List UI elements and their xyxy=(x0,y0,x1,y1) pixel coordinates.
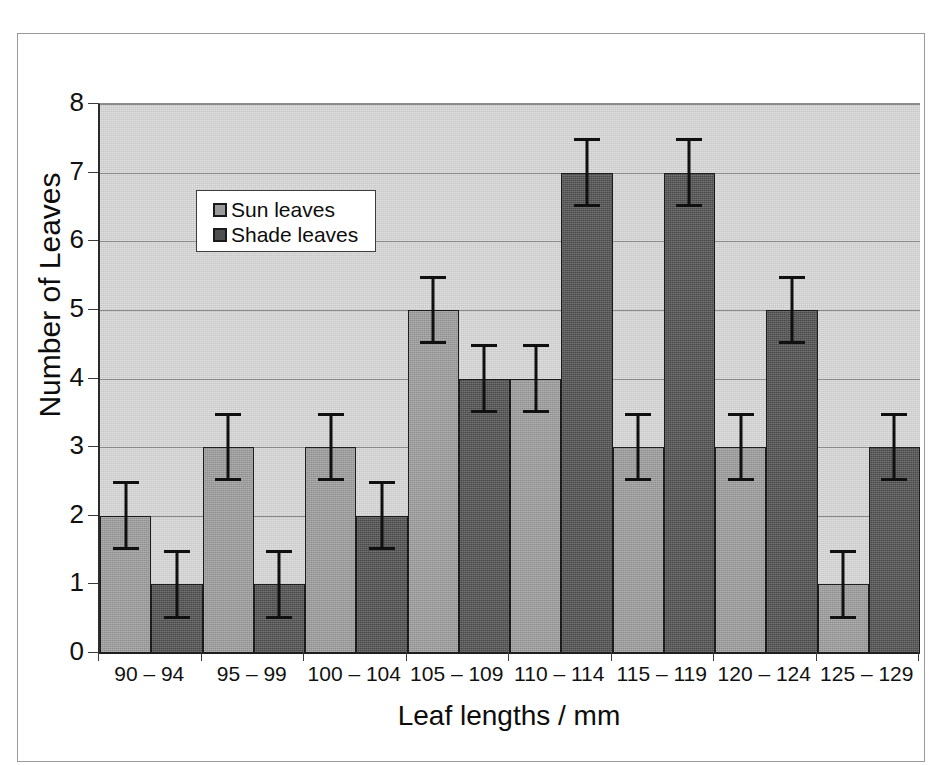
bar-grain xyxy=(460,380,509,653)
error-bar-cap-top xyxy=(830,550,856,553)
bar-shade xyxy=(561,173,612,653)
y-tick-label: 1 xyxy=(44,569,84,595)
error-bar xyxy=(151,550,202,619)
error-bar-cap-bottom xyxy=(266,616,292,619)
error-bar-stem xyxy=(483,344,486,413)
x-tick xyxy=(611,652,612,661)
y-tick xyxy=(88,172,98,173)
x-axis-title: Leaf lengths / mm xyxy=(98,700,920,732)
category-label: 95 – 99 xyxy=(201,662,304,686)
legend-label-shade-leaves: Shade leaves xyxy=(231,224,358,245)
legend-item-sun-leaves: Sun leaves xyxy=(213,197,375,222)
error-bar-stem xyxy=(739,413,742,482)
error-bar-cap-top xyxy=(676,138,702,141)
error-bar-cap-bottom xyxy=(881,478,907,481)
bar-grain xyxy=(511,380,560,653)
error-bar-cap-bottom xyxy=(215,478,241,481)
bar-shade xyxy=(766,310,817,653)
legend-item-shade-leaves: Shade leaves xyxy=(213,222,375,247)
error-bar-cap-bottom xyxy=(523,410,549,413)
error-bar-cap-top xyxy=(728,413,754,416)
error-bar-stem xyxy=(534,344,537,413)
error-bar-stem xyxy=(842,550,845,619)
error-bar xyxy=(408,276,459,345)
bar-sun xyxy=(510,379,561,654)
error-bar-cap-top xyxy=(164,550,190,553)
error-bar-cap-bottom xyxy=(369,547,395,550)
category-label: 105 – 109 xyxy=(406,662,509,686)
y-tick xyxy=(88,240,98,241)
legend-label-sun-leaves: Sun leaves xyxy=(231,199,335,220)
y-tick-label: 2 xyxy=(44,501,84,527)
error-bar-stem xyxy=(329,413,332,482)
error-bar xyxy=(869,413,920,482)
x-tick xyxy=(406,652,407,661)
bar-grain xyxy=(767,311,816,652)
error-bar-cap-bottom xyxy=(676,204,702,207)
error-bar-cap-top xyxy=(318,413,344,416)
error-bar xyxy=(818,550,869,619)
x-tick xyxy=(918,652,919,661)
x-tick xyxy=(713,652,714,661)
chart-legend: Sun leaves Shade leaves xyxy=(196,190,376,252)
error-bar-cap-top xyxy=(471,344,497,347)
error-bar-stem xyxy=(585,138,588,207)
error-bar-stem xyxy=(637,413,640,482)
error-bar-cap-bottom xyxy=(728,478,754,481)
error-bar xyxy=(305,413,356,482)
error-bar xyxy=(459,344,510,413)
y-tick xyxy=(88,446,98,447)
error-bar xyxy=(613,413,664,482)
bar-sun xyxy=(408,310,459,653)
error-bar-cap-bottom xyxy=(420,341,446,344)
error-bar-stem xyxy=(432,276,435,345)
error-bar-cap-bottom xyxy=(574,204,600,207)
x-tick xyxy=(303,652,304,661)
x-tick xyxy=(816,652,817,661)
y-tick-label: 0 xyxy=(44,638,84,664)
error-bar-cap-bottom xyxy=(779,341,805,344)
category-label: 110 – 114 xyxy=(508,662,611,686)
error-bar xyxy=(561,138,612,207)
bar-shade xyxy=(459,379,510,654)
error-bar-cap-top xyxy=(215,413,241,416)
legend-swatch-sun-icon xyxy=(213,203,227,217)
error-bar-cap-bottom xyxy=(318,478,344,481)
error-bar-cap-top xyxy=(266,550,292,553)
error-bar-stem xyxy=(380,481,383,550)
category-label: 90 – 94 xyxy=(98,662,201,686)
error-bar xyxy=(254,550,305,619)
error-bar-stem xyxy=(124,481,127,550)
error-bar-cap-top xyxy=(625,413,651,416)
bar-grain xyxy=(562,174,611,652)
category-label: 125 – 129 xyxy=(816,662,919,686)
error-bar-stem xyxy=(893,413,896,482)
error-bar xyxy=(203,413,254,482)
error-bar-stem xyxy=(227,413,230,482)
figure-canvas: 012345678 90 – 9495 – 99100 – 104105 – 1… xyxy=(0,0,951,765)
error-bar-cap-bottom xyxy=(830,616,856,619)
category-label: 100 – 104 xyxy=(303,662,406,686)
error-bar-cap-bottom xyxy=(113,547,139,550)
error-bar xyxy=(100,481,151,550)
error-bar-stem xyxy=(278,550,281,619)
error-bar-cap-top xyxy=(369,481,395,484)
error-bar xyxy=(356,481,407,550)
error-bar-cap-top xyxy=(523,344,549,347)
error-bar xyxy=(715,413,766,482)
legend-swatch-shade-icon xyxy=(213,228,227,242)
error-bar-cap-top xyxy=(420,276,446,279)
error-bar xyxy=(664,138,715,207)
y-axis-title: Number of Leaves xyxy=(33,95,67,495)
error-bar-cap-top xyxy=(779,276,805,279)
x-axis-line xyxy=(98,652,920,654)
category-label: 120 – 124 xyxy=(713,662,816,686)
x-tick xyxy=(508,652,509,661)
category-label: 115 – 119 xyxy=(611,662,714,686)
error-bar-stem xyxy=(175,550,178,619)
gridline xyxy=(100,173,920,174)
y-tick xyxy=(88,583,98,584)
x-tick xyxy=(201,652,202,661)
error-bar xyxy=(766,276,817,345)
y-tick xyxy=(88,515,98,516)
